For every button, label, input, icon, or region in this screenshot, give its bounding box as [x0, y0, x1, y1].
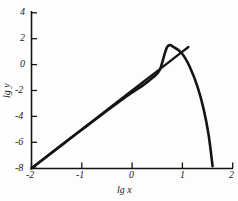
- x-tick-label-0: 0: [129, 170, 134, 180]
- y-axis-title: lg y: [2, 83, 12, 98]
- x-tick-label-m2: -2: [26, 170, 34, 180]
- data-curve: [32, 45, 213, 168]
- plot-area: [0, 0, 238, 201]
- chart-figure: 4 2 0 -2 -4 -6 -8 -2 -1 0 1 2 lg x lg y: [0, 0, 238, 201]
- x-tick-label-m1: -1: [76, 170, 84, 180]
- x-tick-label-2: 2: [229, 170, 234, 180]
- y-tick-label-4: 4: [20, 7, 25, 17]
- y-tick-label-m4: -4: [15, 111, 23, 121]
- y-tick-label-2: 2: [20, 33, 25, 43]
- x-tick-label-1: 1: [180, 170, 185, 180]
- y-tick-label-0: 0: [20, 59, 25, 69]
- y-tick-label-m8: -8: [15, 163, 23, 173]
- y-tick-label-m2: -2: [15, 85, 23, 95]
- x-tick-marks: [32, 163, 233, 169]
- x-axis-title: lg x: [117, 185, 132, 195]
- y-tick-marks: [32, 13, 38, 168]
- y-tick-label-m6: -6: [15, 137, 23, 147]
